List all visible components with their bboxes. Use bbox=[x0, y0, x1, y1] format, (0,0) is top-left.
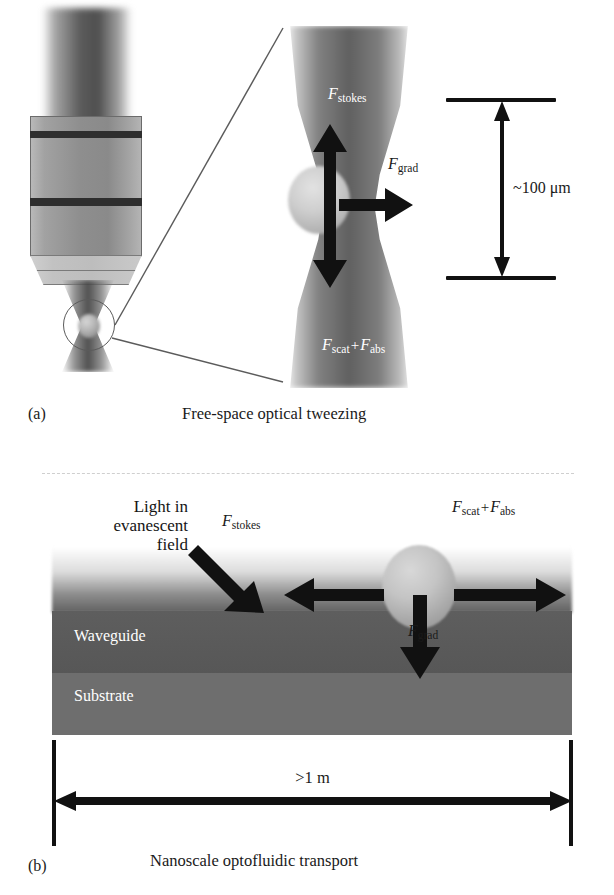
force-symbol-F: F bbox=[490, 498, 500, 515]
substrate-layer-label: Substrate bbox=[74, 687, 134, 705]
force-label-scat-abs-b: Fscat+Fabs bbox=[452, 499, 515, 515]
force-label-grad-b: Fgrad bbox=[408, 623, 438, 639]
length-double-arrow-horizontal bbox=[54, 788, 572, 814]
panel-b-caption: Nanoscale optofluidic transport bbox=[150, 851, 358, 871]
scale-double-arrow-vertical bbox=[490, 101, 514, 277]
light-label-line-1: Light in bbox=[46, 497, 188, 516]
panel-a-letter: (a) bbox=[28, 405, 46, 423]
objective-ring-upper bbox=[30, 131, 142, 138]
panel-b-letter: (b) bbox=[28, 857, 47, 875]
force-symbol-F: F bbox=[328, 85, 338, 102]
objective-barrel bbox=[42, 8, 132, 128]
arrow-stokes-left bbox=[284, 573, 384, 617]
force-symbol-F: F bbox=[452, 498, 462, 515]
force-symbol-F: F bbox=[408, 622, 418, 639]
panel-b-optofluidic-transport: Waveguide Substrate Light in evane bbox=[0, 455, 614, 895]
force-symbol-F: F bbox=[322, 336, 332, 353]
force-subscript-stokes: stokes bbox=[338, 92, 367, 104]
light-in-evanescent-field-label: Light in evanescent field bbox=[46, 497, 188, 554]
force-subscript-scat: scat bbox=[462, 505, 480, 517]
microscope-objective bbox=[18, 8, 158, 363]
objective-ring-lower bbox=[30, 198, 142, 206]
force-subscript-scat: scat bbox=[332, 343, 350, 355]
magnified-trapping-beam bbox=[285, 26, 413, 388]
force-subscript-abs: abs bbox=[500, 505, 515, 517]
force-label-stokes-a: Fstokes bbox=[328, 86, 367, 102]
force-subscript-stokes: stokes bbox=[232, 519, 261, 531]
panel-a-caption: Free-space optical tweezing bbox=[182, 404, 366, 424]
length-scale-bar: >1 m bbox=[40, 740, 585, 850]
arrow-scat-abs-right bbox=[454, 573, 566, 617]
force-subscript-abs: abs bbox=[370, 343, 385, 355]
panel-separator-dashed-line bbox=[42, 473, 574, 474]
force-label-scat-abs-a: Fscat+Fabs bbox=[322, 337, 385, 353]
waveguide-layer-label: Waveguide bbox=[74, 627, 146, 645]
force-subscript-grad: grad bbox=[398, 162, 418, 174]
length-label-1m: >1 m bbox=[40, 768, 585, 788]
scale-bar-100um: ~100 μm bbox=[440, 95, 610, 290]
force-operator-plus: + bbox=[480, 499, 490, 515]
magnification-callout-circle bbox=[63, 299, 115, 351]
figure-optical-trapping: Fstokes Fgrad Fscat+Fabs ~100 μm (a) Fre… bbox=[0, 0, 614, 895]
arrow-light-in bbox=[182, 537, 274, 619]
force-symbol-F: F bbox=[360, 336, 370, 353]
light-label-line-3: field bbox=[46, 535, 188, 554]
force-operator-plus: + bbox=[350, 337, 360, 353]
force-label-stokes-b: Fstokes bbox=[222, 513, 261, 529]
panel-a-free-space-tweezing: Fstokes Fgrad Fscat+Fabs ~100 μm (a) Fre… bbox=[0, 0, 614, 392]
force-symbol-F: F bbox=[222, 512, 232, 529]
scale-label-100um: ~100 μm bbox=[513, 179, 571, 197]
force-subscript-grad: grad bbox=[418, 629, 438, 641]
force-label-grad-a: Fgrad bbox=[388, 156, 418, 172]
arrow-grad-right bbox=[339, 184, 415, 226]
light-label-line-2: evanescent bbox=[46, 516, 188, 535]
force-symbol-F: F bbox=[388, 155, 398, 172]
